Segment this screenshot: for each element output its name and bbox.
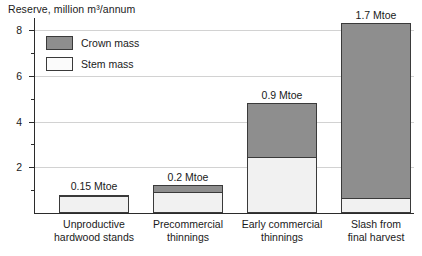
category-line-1: Slash from: [326, 218, 422, 231]
category-line-1: Early commercial: [232, 218, 332, 231]
legend-label-stem-mass: Stem mass: [81, 58, 134, 70]
bar-segment-stem: [153, 192, 223, 213]
y-axis-title: Reserve, million m³/annum: [8, 3, 135, 15]
y-tick-label-2: 2: [16, 161, 22, 173]
y-tick-6: 6: [29, 76, 34, 77]
y-axis-line: [34, 18, 35, 214]
category-line-2: final harvest: [326, 231, 422, 244]
y-tick-2: 2: [29, 167, 34, 168]
legend-swatch-stem-mass: [46, 57, 73, 71]
category-line-1: Precommercial: [138, 218, 238, 231]
category-line-2: hardwood stands: [44, 231, 144, 244]
y-minor-tick-3: [31, 144, 34, 145]
bar-segment-stem: [59, 196, 129, 213]
legend-swatch-crown-mass: [46, 36, 73, 50]
bar-value-label: 0.15 Mtoe: [71, 180, 118, 192]
bar-group-slash-from-final-harvest[interactable]: 1.7 Mtoe: [341, 21, 411, 213]
x-category-label-early-commercial-thinnings: Early commercial thinnings: [232, 218, 332, 243]
bar-group-precommercial-thinnings[interactable]: 0.2 Mtoe: [153, 184, 223, 213]
y-tick-label-6: 6: [16, 70, 22, 82]
chart-figure: Reserve, million m³/annum 8 6 4 2 0.15 M…: [0, 0, 422, 256]
bar-value-label: 0.2 Mtoe: [168, 171, 209, 183]
bar-value-label: 0.9 Mtoe: [262, 89, 303, 101]
chart-legend: Crown mass Stem mass: [46, 34, 139, 76]
y-tick-8: 8: [29, 30, 34, 31]
bar-segment-stem: [247, 157, 317, 213]
y-tick-label-4: 4: [16, 116, 22, 128]
y-tick-4: 4: [29, 122, 34, 123]
x-category-label-precommercial-thinnings: Precommercial thinnings: [138, 218, 238, 243]
bar-segment-crown: [341, 23, 411, 199]
legend-item-crown-mass[interactable]: Crown mass: [46, 34, 139, 51]
y-minor-tick-1: [31, 190, 34, 191]
bar-group-early-commercial-thinnings[interactable]: 0.9 Mtoe: [247, 101, 317, 213]
bar-segment-crown: [247, 103, 317, 158]
bar-value-label: 1.7 Mtoe: [356, 9, 397, 21]
category-line-2: thinnings: [232, 231, 332, 244]
y-tick-label-8: 8: [16, 24, 22, 36]
category-line-1: Unproductive: [44, 218, 144, 231]
bar-group-unproductive-hardwood-stands[interactable]: 0.15 Mtoe: [59, 193, 129, 213]
bar-segment-stem: [341, 198, 411, 213]
y-minor-tick-7: [31, 53, 34, 54]
y-minor-tick-5: [31, 99, 34, 100]
x-axis-line: [34, 213, 414, 214]
legend-item-stem-mass[interactable]: Stem mass: [46, 55, 139, 72]
x-category-label-unproductive-hardwood-stands: Unproductive hardwood stands: [44, 218, 144, 243]
category-line-2: thinnings: [138, 231, 238, 244]
legend-label-crown-mass: Crown mass: [81, 37, 139, 49]
x-category-label-slash-from-final-harvest: Slash from final harvest: [326, 218, 422, 243]
